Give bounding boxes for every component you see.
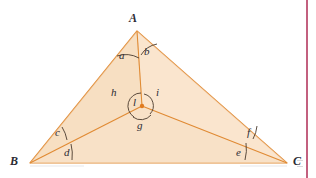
angle-label-f: f xyxy=(247,127,250,138)
vertex-label-B: B xyxy=(10,155,18,167)
angle-label-h: h xyxy=(111,87,117,98)
angle-label-e: e xyxy=(236,147,241,158)
edge-mark-lower xyxy=(297,166,303,167)
vertex-label-A: A xyxy=(129,12,137,24)
angle-label-d: d xyxy=(64,147,70,158)
geometry-figure: A B C a b c d e f g h i l xyxy=(0,0,316,178)
incenter-dot xyxy=(140,104,144,108)
angle-label-c: c xyxy=(55,127,60,138)
page-edge-rule xyxy=(306,0,308,178)
angle-label-b: b xyxy=(144,46,150,57)
angle-label-a: a xyxy=(119,50,125,61)
edge-mark-upper xyxy=(297,160,303,161)
angle-label-i: i xyxy=(156,87,159,98)
angle-label-l: l xyxy=(133,97,136,108)
angle-label-g: g xyxy=(137,120,143,131)
